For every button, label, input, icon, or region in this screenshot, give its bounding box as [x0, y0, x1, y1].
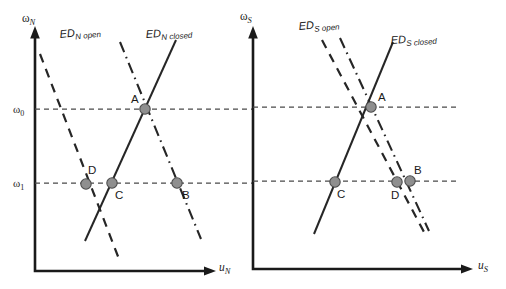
north-omega0-tick-label: ω0 [13, 103, 24, 118]
south-y-axis-arrowhead [248, 26, 258, 39]
south-x-axis-arrowhead [461, 264, 473, 273]
diagram-canvas: A B C D EDN open EDN closed ωN uN ω0 ω1 [0, 0, 506, 289]
panel-north: A B C D EDN open EDN closed ωN uN ω0 ω1 [13, 12, 254, 276]
north-point-a [140, 104, 150, 114]
north-ed-closed-label: EDN closed [145, 25, 193, 43]
south-ed-closed-label: EDS closed [390, 31, 437, 49]
south-ed-open-label: EDS open [298, 16, 340, 35]
south-point-a [366, 102, 376, 112]
north-point-d-label: D [88, 164, 96, 176]
south-point-d [392, 177, 402, 187]
south-point-b-label: B [414, 164, 422, 176]
panel-south: A B C D EDS open EDS closed ωS uS [240, 10, 489, 274]
north-y-axis-label: ωN [22, 12, 37, 27]
economics-diagram-figure: A B C D EDN open EDN closed ωN uN ω0 ω1 [0, 0, 506, 289]
north-point-d [81, 179, 91, 189]
north-point-a-label: A [131, 93, 139, 105]
south-ed-dashdot-curve [340, 38, 429, 231]
north-omega1-tick-label: ω1 [13, 177, 24, 192]
south-x-axis-label: uS [478, 259, 489, 274]
north-point-c [107, 178, 117, 188]
north-point-c-label: C [115, 189, 123, 201]
south-point-c [330, 177, 340, 187]
north-y-axis-arrowhead [30, 26, 40, 39]
north-point-b [172, 178, 182, 188]
north-ed-open-label: EDN open [59, 24, 102, 43]
south-point-c-label: C [337, 188, 345, 200]
south-ed-open-curve [322, 40, 424, 232]
north-point-b-label: B [182, 189, 190, 201]
south-point-a-label: A [378, 91, 386, 103]
north-x-axis-arrowhead [204, 266, 216, 275]
north-ed-open-curve [40, 54, 119, 259]
north-axes [35, 36, 210, 271]
south-ed-closed-curve [314, 42, 393, 234]
north-x-axis-label: uN [219, 261, 232, 276]
south-point-d-label: D [391, 189, 399, 201]
south-point-b [405, 176, 415, 186]
south-y-axis-label: ωS [240, 10, 253, 25]
north-ed-dashdot-curve [120, 42, 201, 239]
south-axes [253, 36, 466, 269]
